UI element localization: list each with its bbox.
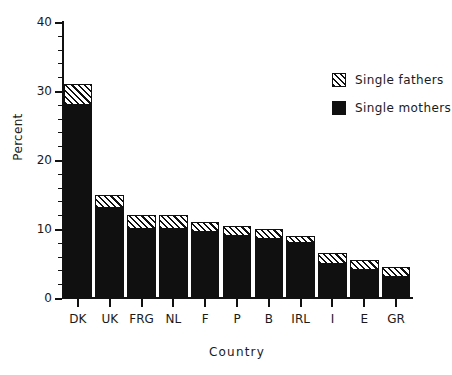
y-tick-minor xyxy=(58,36,62,37)
y-tick-minor xyxy=(58,284,62,285)
bar-segment-single-mothers xyxy=(223,236,252,298)
bar-segment-single-fathers xyxy=(255,229,284,239)
bar-b xyxy=(255,229,284,298)
x-tick-label-b: B xyxy=(265,312,273,326)
bar-nl xyxy=(159,215,188,298)
bar-segment-single-mothers xyxy=(382,277,411,298)
x-axis-title: Country xyxy=(62,345,412,359)
y-tick-minor xyxy=(58,174,62,175)
y-tick-minor xyxy=(58,50,62,51)
y-tick-minor xyxy=(58,146,62,147)
bar-gr xyxy=(382,267,411,298)
x-tick xyxy=(204,299,206,307)
y-tick-minor xyxy=(58,119,62,120)
y-tick-minor xyxy=(58,132,62,133)
y-tick-minor xyxy=(58,270,62,271)
x-tick xyxy=(363,299,365,307)
x-tick-label-nl: NL xyxy=(166,312,182,326)
bar-chart-figure: Percent Country 010203040 DKUKFRGNLFPBIR… xyxy=(0,0,452,375)
y-axis-title: Percent xyxy=(11,77,25,197)
x-tick-label-frg: FRG xyxy=(129,312,154,326)
bar-segment-single-mothers xyxy=(350,270,379,298)
y-tick-label: 40 xyxy=(37,15,52,29)
x-tick xyxy=(77,299,79,307)
bar-e xyxy=(350,260,379,298)
x-tick xyxy=(300,299,302,307)
bar-segment-single-fathers xyxy=(382,267,411,277)
x-tick xyxy=(109,299,111,307)
bar-segment-single-fathers xyxy=(64,84,93,105)
bar-frg xyxy=(127,215,156,298)
y-tick-minor xyxy=(58,243,62,244)
bar-segment-single-fathers xyxy=(191,222,220,232)
y-tick-major xyxy=(55,160,62,162)
bar-f xyxy=(191,222,220,298)
legend-item-single-fathers: Single fathers xyxy=(332,66,451,94)
y-tick-major xyxy=(55,91,62,93)
y-tick-minor xyxy=(58,257,62,258)
y-tick-major xyxy=(55,298,62,300)
bar-segment-single-mothers xyxy=(191,232,220,298)
bar-segment-single-fathers xyxy=(350,260,379,270)
y-tick-label: 10 xyxy=(37,222,52,236)
y-tick-minor xyxy=(58,188,62,189)
bar-segment-single-fathers xyxy=(318,253,347,263)
y-tick-minor xyxy=(58,201,62,202)
x-tick xyxy=(141,299,143,307)
x-tick xyxy=(172,299,174,307)
x-tick-label-f: F xyxy=(202,312,209,326)
bar-segment-single-fathers xyxy=(127,215,156,229)
bar-segment-single-mothers xyxy=(64,105,93,298)
bar-segment-single-fathers xyxy=(286,236,315,243)
bar-segment-single-fathers xyxy=(159,215,188,229)
x-tick-label-e: E xyxy=(360,312,368,326)
y-tick-label: 30 xyxy=(37,84,52,98)
x-tick xyxy=(395,299,397,307)
chart-legend: Single fathers Single mothers xyxy=(332,66,451,122)
bar-dk xyxy=(64,84,93,298)
x-tick xyxy=(268,299,270,307)
bar-segment-single-mothers xyxy=(159,229,188,298)
bar-segment-single-mothers xyxy=(255,239,284,298)
x-tick-label-i: I xyxy=(331,312,335,326)
x-tick-label-dk: DK xyxy=(69,312,86,326)
y-tick-label: 20 xyxy=(37,153,52,167)
y-tick-label: 0 xyxy=(44,291,52,305)
y-tick-minor xyxy=(58,105,62,106)
bar-uk xyxy=(95,195,124,299)
y-tick-major xyxy=(55,229,62,231)
bar-segment-single-mothers xyxy=(318,264,347,299)
x-tick xyxy=(331,299,333,307)
x-tick-label-p: P xyxy=(233,312,240,326)
bar-segment-single-mothers xyxy=(286,243,315,298)
bar-segment-single-mothers xyxy=(127,229,156,298)
x-tick-label-gr: GR xyxy=(387,312,405,326)
legend-label: Single mothers xyxy=(355,101,451,115)
legend-label: Single fathers xyxy=(355,73,444,87)
bar-i xyxy=(318,253,347,298)
bar-p xyxy=(223,226,252,298)
bar-irl xyxy=(286,236,315,298)
plot-area: 010203040 DKUKFRGNLFPBIRLIEGR xyxy=(62,22,412,298)
solid-swatch-icon xyxy=(332,101,346,115)
bar-segment-single-mothers xyxy=(95,208,124,298)
y-tick-minor xyxy=(58,215,62,216)
x-tick-label-irl: IRL xyxy=(291,312,310,326)
bar-segment-single-fathers xyxy=(223,226,252,236)
bar-segment-single-fathers xyxy=(95,195,124,209)
y-tick-minor xyxy=(58,63,62,64)
legend-item-single-mothers: Single mothers xyxy=(332,94,451,122)
y-tick-minor xyxy=(58,77,62,78)
x-tick xyxy=(236,299,238,307)
hatched-swatch-icon xyxy=(332,73,346,87)
y-tick-major xyxy=(55,22,62,24)
x-tick-label-uk: UK xyxy=(101,312,118,326)
